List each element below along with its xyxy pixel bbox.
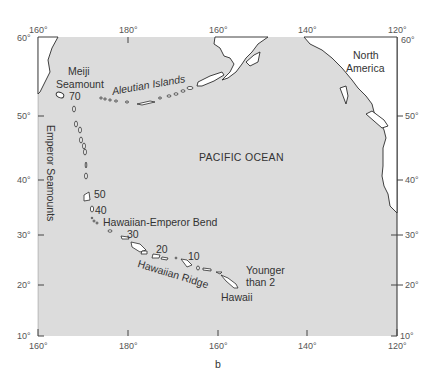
label-hawaii: Hawaii [221, 292, 253, 303]
lat-label-right-10: 10° [400, 332, 414, 341]
figure-caption: b [215, 359, 221, 370]
lat-label-right-50: 50° [405, 112, 419, 121]
lat-label-left-30: 30° [17, 231, 31, 240]
age-30: 30 [127, 229, 139, 240]
age-50: 50 [94, 189, 106, 200]
label-than-2: than 2 [246, 277, 275, 288]
label-younger: Younger [246, 265, 285, 276]
age-10: 10 [188, 251, 200, 262]
lat-label-right-30: 30° [405, 231, 419, 240]
lon-label-top-140w: 140° [298, 26, 317, 35]
lon-label-bottom-160w: 160° [209, 342, 228, 351]
label-north: North [353, 50, 379, 61]
lat-label-left-10: 10° [17, 332, 31, 341]
lat-label-left-60: 60° [17, 34, 31, 43]
lat-label-right-20: 20° [405, 281, 419, 290]
lon-label-top-160e: 160° [29, 26, 48, 35]
lat-label-right-60: 60° [401, 36, 415, 45]
lon-label-top-120w: 120° [388, 26, 407, 35]
age-40: 40 [95, 205, 107, 216]
label-pacific-ocean: PACIFIC OCEAN [199, 152, 284, 163]
lon-label-bottom-160e: 160° [29, 342, 48, 351]
lon-label-bottom-120w: 120° [388, 342, 407, 351]
age-70: 70 [69, 91, 81, 102]
lon-label-bottom-140w: 140° [298, 342, 317, 351]
age-20: 20 [156, 244, 168, 255]
lon-label-top-160w: 160° [209, 26, 228, 35]
lon-label-bottom-180: 180° [119, 342, 138, 351]
label-hawaiian-emperor-bend: Hawaiian-Emperor Bend [103, 217, 217, 228]
label-seamount: Seamount [56, 79, 104, 90]
label-america: America [346, 63, 385, 74]
label-meiji: Meiji [68, 66, 90, 77]
lat-label-left-50: 50° [17, 112, 31, 121]
lon-label-top-180: 180° [119, 26, 138, 35]
label-emperor-seamounts: Emperor Seamounts [46, 125, 57, 221]
lat-label-left-40: 40° [17, 176, 31, 185]
lat-label-left-20: 20° [17, 281, 31, 290]
lat-label-right-40: 40° [405, 176, 419, 185]
